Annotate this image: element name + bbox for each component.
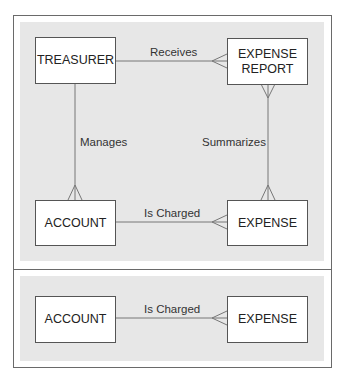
entity-expense: EXPENSE <box>227 200 308 246</box>
entity-expense-simple: EXPENSE <box>227 296 308 343</box>
entity-account: ACCOUNT <box>35 200 116 246</box>
relationship-label-summarizes: Summarizes <box>202 136 266 148</box>
entity-treasurer: TREASURER <box>35 37 116 84</box>
entity-account-simple: ACCOUNT <box>35 296 116 343</box>
relationship-label-manages: Manages <box>80 136 127 148</box>
entity-expense-report: EXPENSE REPORT <box>227 38 308 85</box>
relationship-label-is-charged: Is Charged <box>144 207 200 219</box>
relationship-label-is-charged-simple: Is Charged <box>144 303 200 315</box>
relationship-label-receives: Receives <box>150 46 197 58</box>
